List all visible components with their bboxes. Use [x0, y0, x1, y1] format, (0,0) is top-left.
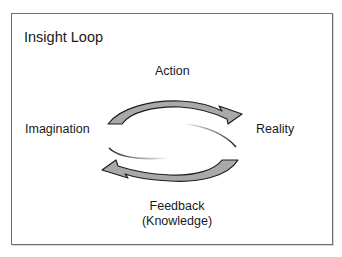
arrow-top-icon: [108, 101, 242, 124]
swoosh-right-icon: [185, 124, 236, 147]
arrow-bottom-icon: [102, 160, 238, 181]
cycle-arrows: [0, 0, 342, 257]
swoosh-left-icon: [109, 148, 168, 159]
